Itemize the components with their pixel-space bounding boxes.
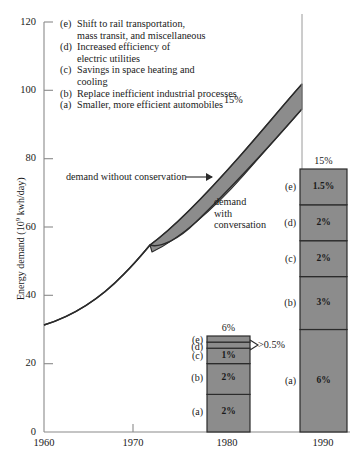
bar-1990-total-label: 15%	[300, 155, 347, 166]
bar-1990-key-e: (e)	[274, 181, 296, 192]
y-tick-120: 120	[10, 16, 36, 28]
y-tick-60: 60	[10, 221, 36, 233]
bar-1980-callout-pointer	[250, 340, 258, 350]
legend-key-c: (c)	[60, 64, 77, 87]
legend-key-d: (d)	[60, 41, 77, 64]
bar-1990-key-b: (b)	[274, 297, 296, 308]
bar-1980-key-a: (a)	[181, 406, 203, 417]
annotation-wedge-percent: 15%	[224, 94, 243, 106]
bar-1980-pct-b: 2%	[207, 372, 250, 382]
bar-1990-key-a: (a)	[274, 375, 296, 386]
y-axis-label: Energy demand (109 kwh/day)	[14, 178, 26, 300]
legend-label-e: Shift to rail transportation, mass trans…	[77, 18, 205, 41]
bar-1990-pct-a: 6%	[300, 375, 347, 385]
annotation-with-conservation: demand with conversation	[214, 196, 266, 231]
y-tick-40: 40	[10, 289, 36, 301]
legend-label-b: Replace inefficient industrial processes	[77, 88, 237, 100]
bar-1980-callout-label: >0.5%	[258, 339, 285, 351]
annotation-without-conservation: demand without conservation	[66, 171, 187, 183]
legend-key-a: (a)	[60, 99, 77, 111]
legend-label-d: Increased efficiency of electric utiliti…	[77, 41, 170, 64]
legend-item-d: (d) Increased efficiency of electric uti…	[60, 41, 237, 64]
legend-item-a: (a) Smaller, more efficient automobiles	[60, 99, 237, 111]
legend-label-a: Smaller, more efficient automobiles	[77, 99, 223, 111]
y-axis-ticks	[44, 22, 53, 364]
legend-item-e: (e) Shift to rail transportation, mass t…	[60, 18, 237, 41]
legend-item-c: (c) Savings in space heating and cooling	[60, 64, 237, 87]
legend: (e) Shift to rail transportation, mass t…	[60, 18, 237, 111]
y-tick-20: 20	[10, 357, 36, 369]
bar-1980-key-b: (b)	[181, 372, 203, 383]
bar-1990-pct-b: 3%	[300, 297, 347, 307]
bar-1980-pct-a: 2%	[207, 406, 250, 416]
bar-1990-pct-d: 2%	[300, 217, 347, 227]
y-tick-100: 100	[10, 84, 36, 96]
legend-label-c: Savings in space heating and cooling	[77, 64, 195, 87]
legend-item-b: (b) Replace inefficient industrial proce…	[60, 88, 237, 100]
bar-1990-key-d: (d)	[274, 217, 296, 228]
legend-key-e: (e)	[60, 18, 77, 41]
bar-1990-key-c: (c)	[274, 253, 296, 264]
bar-1980-key-c: (c)	[181, 350, 203, 361]
y-tick-80: 80	[10, 152, 36, 164]
annotation-arrow	[186, 173, 213, 181]
bar-1980-pct-c: 1%	[207, 350, 250, 360]
x-tick-1980: 1980	[205, 437, 249, 449]
x-tick-1960: 1960	[22, 437, 66, 449]
bar-1990-pct-e: 1.5%	[300, 181, 347, 191]
energy-demand-chart: Energy demand (109 kwh/day) 120 100 80 6…	[0, 0, 353, 468]
bar-1980-segment-d	[207, 342, 250, 348]
y-tick-0: 0	[10, 426, 36, 438]
bar-1990-pct-c: 2%	[300, 253, 347, 263]
x-tick-1990: 1990	[301, 437, 345, 449]
bar-1980-segment-e	[207, 336, 250, 342]
bar-1980-total-label: 6%	[207, 322, 250, 333]
x-tick-1970: 1970	[111, 437, 155, 449]
legend-key-b: (b)	[60, 88, 77, 100]
